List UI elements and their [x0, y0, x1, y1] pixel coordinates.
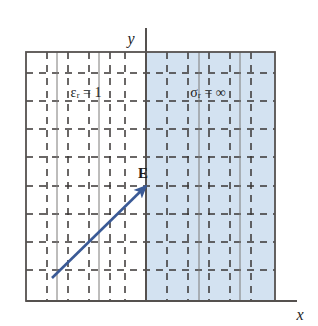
e-field-vector-label: E — [138, 165, 148, 181]
physics-diagram-canvas: y x εᵣ = 1 σᵣ = ∞ E — [0, 0, 318, 326]
conductor-region-label: σᵣ = ∞ — [190, 85, 226, 100]
y-axis-label: y — [125, 30, 135, 48]
x-axis-label: x — [295, 306, 303, 323]
figure-root: y x εᵣ = 1 σᵣ = ∞ E — [0, 0, 318, 326]
dielectric-region-label: εᵣ = 1 — [71, 85, 102, 100]
